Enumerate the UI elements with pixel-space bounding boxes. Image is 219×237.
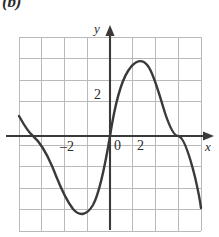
x-tick-label-0: 0 (114, 139, 121, 153)
x-axis-label: x (205, 140, 211, 153)
graph-figure (0, 0, 219, 237)
axes (6, 32, 208, 230)
y-axis-label: y (94, 22, 100, 35)
y-axis-arrow (105, 25, 114, 36)
x-tick-label-neg2: –2 (60, 140, 74, 154)
y-tick-label-2: 2 (94, 88, 101, 102)
x-tick-label-2: 2 (137, 139, 144, 153)
